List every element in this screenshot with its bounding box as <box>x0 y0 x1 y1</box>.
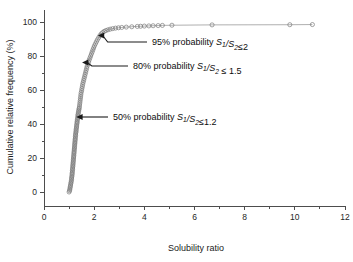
chart-figure: 020406080100 024681012 95% probability S… <box>0 0 353 262</box>
annotation-label: 80% probability S1/S2 ≤ 1.5 <box>133 61 241 75</box>
annotation-arrow-head <box>82 60 88 66</box>
y-axis-title: Cumulative relative frequency (%) <box>5 39 15 174</box>
annotation-label: 50% probability S1/S2≤1.2 <box>113 112 216 126</box>
x-tick-label: 10 <box>290 212 300 222</box>
annotation-leader-line <box>103 36 147 43</box>
y-tick-label: 40 <box>28 119 38 129</box>
x-tick-label: 0 <box>42 212 47 222</box>
x-tick-label: 2 <box>92 212 97 222</box>
annotation-95: 95% probability S1/S2≤2 <box>98 33 248 52</box>
y-tick-label: 0 <box>32 187 37 197</box>
cumulative-frequency-markers <box>67 23 314 195</box>
y-tick-label: 20 <box>28 153 38 163</box>
x-tick-label: 8 <box>242 212 247 222</box>
x-axis-ticks: 024681012 <box>42 206 350 222</box>
x-tick-label: 12 <box>340 212 350 222</box>
annotations-group: 95% probability S1/S2≤280% probability S… <box>76 33 248 127</box>
y-tick-label: 60 <box>28 85 38 95</box>
annotation-label: 95% probability S1/S2≤2 <box>152 37 248 51</box>
x-tick-label: 4 <box>142 212 147 222</box>
x-axis-title: Solubility ratio <box>168 243 224 253</box>
y-axis-ticks: 020406080100 <box>23 17 44 197</box>
annotation-50: 50% probability S1/S2≤1.2 <box>76 112 216 126</box>
y-tick-label: 80 <box>28 51 38 61</box>
annotation-leader-line <box>87 63 128 67</box>
cumulative-frequency-line <box>69 25 312 192</box>
x-tick-label: 6 <box>192 212 197 222</box>
chart-canvas: 020406080100 024681012 95% probability S… <box>0 0 353 262</box>
data-series-group <box>67 23 314 195</box>
y-tick-label: 100 <box>23 17 37 27</box>
annotation-80: 80% probability S1/S2 ≤ 1.5 <box>82 60 241 76</box>
